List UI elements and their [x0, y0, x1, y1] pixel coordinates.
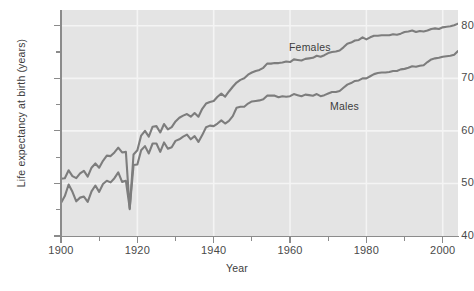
y-tick-minor-55 [56, 157, 60, 158]
y-tick-label-40: 40 [430, 229, 474, 241]
x-axis-line [60, 236, 459, 237]
x-tick-minor-1990 [404, 237, 405, 241]
series-label-males: Males [330, 100, 359, 112]
x-tick-label-1980: 1980 [344, 244, 388, 256]
x-tick-minor-1950 [251, 237, 252, 241]
y-tick-label-70: 70 [430, 71, 474, 83]
y-tick-60 [54, 130, 60, 131]
x-tick-minor-1930 [175, 237, 176, 241]
x-tick-label-1960: 1960 [268, 244, 312, 256]
y-tick-minor-75 [56, 51, 60, 52]
x-tick-1940 [213, 237, 214, 243]
y-tick-minor-45 [56, 209, 60, 210]
x-tick-2000 [442, 237, 443, 243]
x-tick-1900 [60, 237, 61, 243]
plot-area [61, 10, 458, 236]
life-expectancy-chart-figure: 4050607080 190019201940196019802000 Life… [0, 0, 474, 291]
y-tick-40 [54, 235, 60, 236]
x-tick-minor-1970 [328, 237, 329, 241]
y-tick-80 [54, 25, 60, 26]
y-tick-label-80: 80 [430, 19, 474, 31]
x-tick-label-1900: 1900 [39, 244, 83, 256]
series-label-females: Females [289, 41, 331, 53]
x-axis-title: Year [0, 262, 474, 274]
y-tick-label-50: 50 [430, 176, 474, 188]
x-tick-1980 [366, 237, 367, 243]
series-line-males [61, 51, 458, 208]
y-tick-label-60: 60 [430, 124, 474, 136]
x-tick-label-1940: 1940 [192, 244, 236, 256]
y-tick-50 [54, 183, 60, 184]
series-line-females [61, 24, 458, 210]
plot-canvas [61, 10, 458, 236]
y-axis-title: Life expectancy at birth (years) [15, 13, 27, 213]
x-tick-label-1920: 1920 [115, 244, 159, 256]
x-tick-minor-1910 [99, 237, 100, 241]
gridlines [61, 10, 458, 236]
x-tick-1960 [289, 237, 290, 243]
x-tick-1920 [137, 237, 138, 243]
y-tick-minor-65 [56, 104, 60, 105]
y-axis-line [60, 10, 62, 237]
x-tick-label-2000: 2000 [421, 244, 465, 256]
y-tick-70 [54, 78, 60, 79]
